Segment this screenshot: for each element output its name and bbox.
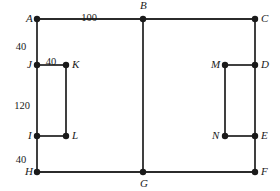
vertex-point-c — [252, 16, 258, 22]
vertex-point-l — [63, 133, 69, 139]
vertex-label-k: K — [72, 59, 79, 70]
vertex-point-g — [140, 169, 146, 175]
vertex-label-n: N — [212, 130, 219, 141]
vertex-label-e: E — [261, 130, 268, 141]
vertex-label-b: B — [140, 0, 147, 11]
vertex-point-f — [252, 169, 258, 175]
vertex-point-i — [34, 133, 40, 139]
vertex-point-h — [34, 169, 40, 175]
dimension-label-ih: 40 — [16, 155, 27, 166]
dimension-label-ji: 120 — [14, 101, 30, 112]
edges-group — [37, 19, 255, 172]
vertex-label-c: C — [261, 13, 268, 24]
vertex-label-j: J — [27, 59, 32, 70]
diagram-canvas — [0, 0, 280, 191]
vertex-label-m: M — [211, 59, 220, 70]
vertex-point-n — [222, 133, 228, 139]
vertex-label-d: D — [261, 59, 269, 70]
dimension-label-ab: 100 — [81, 13, 97, 24]
vertex-point-k — [63, 62, 69, 68]
dimension-label-jk: 40 — [46, 57, 57, 68]
vertex-label-l: L — [72, 130, 78, 141]
vertex-label-a: A — [26, 13, 33, 24]
vertex-point-a — [34, 16, 40, 22]
vertex-label-h: H — [25, 166, 33, 177]
geometry-diagram: ABCDEFGHIJKLMN 100404012040 — [0, 0, 280, 191]
vertex-label-f: F — [261, 166, 268, 177]
vertex-label-g: G — [140, 178, 148, 189]
dimension-label-aj: 40 — [16, 42, 27, 53]
vertex-point-b — [140, 16, 146, 22]
vertex-point-m — [222, 62, 228, 68]
vertex-point-e — [252, 133, 258, 139]
vertex-label-i: I — [28, 130, 32, 141]
vertex-point-j — [34, 62, 40, 68]
vertex-point-d — [252, 62, 258, 68]
